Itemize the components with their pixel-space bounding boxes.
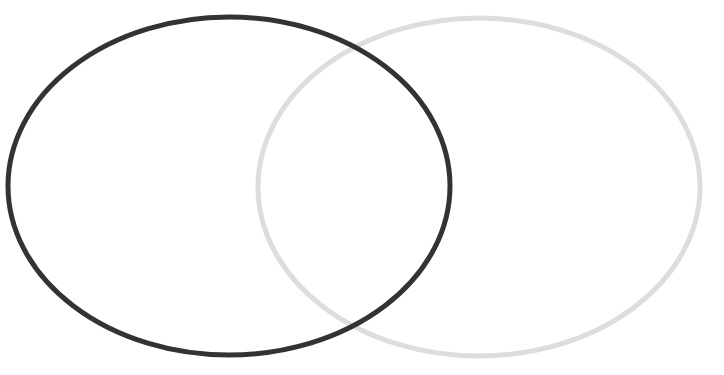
right-set-ellipse	[258, 18, 700, 356]
left-set-ellipse	[8, 17, 450, 355]
venn-diagram	[0, 0, 724, 375]
